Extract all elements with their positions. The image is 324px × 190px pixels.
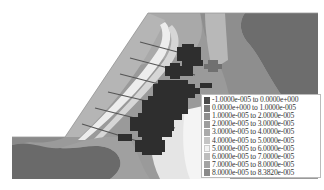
legend-swatch — [204, 97, 210, 104]
legend-swatch — [204, 121, 210, 128]
legend-swatch — [204, 105, 210, 112]
legend-swatch — [204, 137, 210, 144]
legend-swatch — [204, 153, 210, 160]
legend-swatch — [204, 113, 210, 120]
legend-swatch — [204, 169, 210, 176]
color-legend: -1.0000e-005 to 0.0000e+000 0.0000e+000 … — [201, 94, 321, 178]
legend-label: 8.0000e-005 to 8.3820e-005 — [212, 169, 294, 177]
legend-row: 8.0000e-005 to 8.3820e-005 — [204, 169, 319, 177]
legend-swatch — [204, 129, 210, 136]
legend-swatch — [204, 161, 210, 168]
legend-swatch — [204, 145, 210, 152]
contour-figure: -1.0000e-005 to 0.0000e+000 0.0000e+000 … — [0, 0, 324, 190]
